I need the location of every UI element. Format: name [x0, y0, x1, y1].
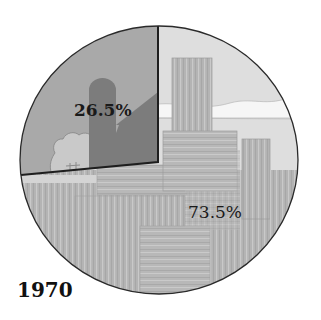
silo-icon [89, 78, 116, 175]
right-low-building [270, 170, 310, 230]
year-label: 1970 [17, 278, 73, 302]
tall-tower [172, 58, 212, 134]
rural-percent-label: 26.5% [74, 100, 132, 120]
pie-chart: 26.5% 73.5% 1970 [0, 0, 321, 320]
right-building [242, 139, 270, 219]
urban-percent-label: 73.5% [188, 202, 242, 222]
light-strip [20, 175, 100, 183]
